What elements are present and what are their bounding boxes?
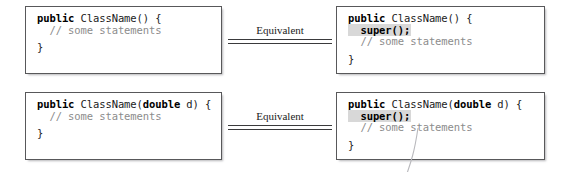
highlighted-super-call: super(); [348,24,411,36]
code-block: public ClassName(double d) { super(); //… [348,99,540,151]
figure-row-no-arg-constructor: public ClassName() { // some statements}… [0,0,561,86]
constructor-with-explicit-super: public ClassName() { super(); // some st… [336,6,545,74]
highlighted-super-call: super(); [348,110,411,122]
constructor-without-explicit-super: public ClassName() { // some statements} [25,6,222,74]
equivalent-label: Equivalent [228,24,332,37]
code-signature-rest: d) { [491,98,522,110]
code-signature-mid: ClassName( [74,98,142,110]
param-constructor-without-explicit-super: public ClassName(double d) { // some sta… [25,92,222,160]
figure-row-double-arg-constructor: public ClassName(double d) { // some sta… [0,86,561,172]
keyword-public: public [348,12,385,24]
equivalence-rule-bottom [228,129,332,130]
keyword-double: double [454,98,491,110]
code-closing-brace: } [348,54,540,66]
code-signature-rest: d) { [180,98,211,110]
code-signature: ClassName() { [385,12,472,24]
code-comment: // some statements [37,25,217,37]
code-block: public ClassName() { super(); // some st… [348,13,540,65]
param-constructor-with-explicit-super: public ClassName(double d) { super(); //… [336,92,545,160]
keyword-double: double [143,98,180,110]
keyword-public: public [37,98,74,110]
code-signature-mid: ClassName( [385,98,453,110]
code-closing-brace: } [37,128,217,140]
code-comment: // some statements [37,111,217,123]
code-closing-brace: } [348,140,540,152]
code-block: public ClassName() { // some statements} [37,13,217,54]
keyword-public: public [348,98,385,110]
code-line: public ClassName(double d) { [37,99,217,111]
equivalence-rule-top [228,125,332,126]
equivalence-rule-top [228,39,332,40]
constructor-equivalence-figure: public ClassName() { // some statements}… [0,0,561,172]
code-comment: // some statements [348,36,540,48]
code-line: public ClassName() { [348,13,540,25]
code-line: public ClassName() { [37,13,217,25]
keyword-public: public [37,12,74,24]
equivalent-label: Equivalent [228,110,332,123]
code-block: public ClassName(double d) { // some sta… [37,99,217,140]
equivalence-rule-bottom [228,43,332,44]
code-closing-brace: } [37,42,217,54]
equivalent-connector: Equivalent [228,110,332,136]
code-signature: ClassName() { [74,12,161,24]
code-line: public ClassName(double d) { [348,99,540,111]
equivalent-connector: Equivalent [228,24,332,50]
code-comment: // some statements [348,122,540,134]
